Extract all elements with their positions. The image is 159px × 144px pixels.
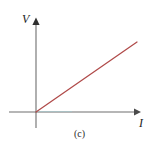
y-axis-label: V	[22, 13, 29, 25]
figure-container: V I (c)	[0, 0, 159, 144]
figure-caption: (c)	[0, 129, 159, 139]
x-axis-label: I	[139, 117, 143, 129]
